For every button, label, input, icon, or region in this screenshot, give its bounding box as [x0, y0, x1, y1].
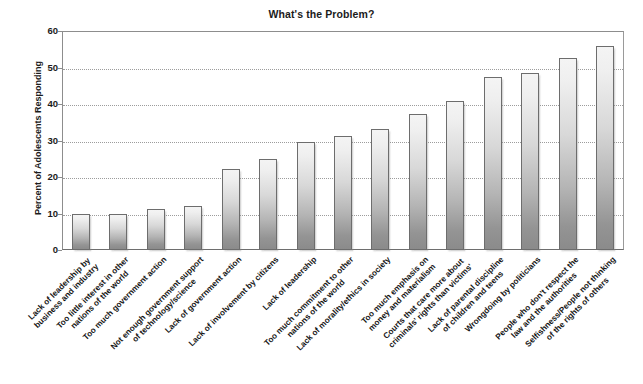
y-tick-mark-0 — [58, 250, 62, 251]
bar[interactable] — [297, 142, 315, 250]
bar[interactable] — [371, 129, 389, 250]
y-axis-ticks: 0102030405060 — [28, 31, 58, 250]
y-tick-label-20: 20 — [32, 171, 58, 182]
bar[interactable] — [184, 206, 202, 250]
bar[interactable] — [409, 114, 427, 250]
bar[interactable] — [72, 214, 90, 250]
bar-chart: What's the Problem? Percent of Adolescen… — [0, 0, 643, 384]
bars-group — [62, 31, 624, 250]
chart-title: What's the Problem? — [0, 8, 643, 20]
y-tick-label-10: 10 — [32, 208, 58, 219]
bar[interactable] — [521, 73, 539, 250]
y-tick-label-50: 50 — [32, 62, 58, 73]
y-tick-label-0: 0 — [32, 244, 58, 255]
y-tick-label-60: 60 — [32, 25, 58, 36]
bar[interactable] — [484, 77, 502, 250]
bar[interactable] — [109, 214, 127, 251]
bar[interactable] — [334, 136, 352, 250]
y-tick-label-30: 30 — [32, 135, 58, 146]
bar[interactable] — [596, 46, 614, 250]
y-tick-label-40: 40 — [32, 98, 58, 109]
bar[interactable] — [559, 58, 577, 250]
bar[interactable] — [147, 209, 165, 250]
bar[interactable] — [446, 101, 464, 250]
bar[interactable] — [259, 159, 277, 250]
bar[interactable] — [222, 169, 240, 250]
